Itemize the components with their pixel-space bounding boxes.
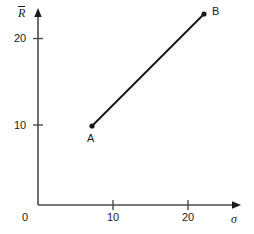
- point-label-b: B: [212, 6, 219, 17]
- y-tick-label-20: 20: [14, 33, 26, 44]
- data-point-b: [201, 11, 206, 16]
- x-tick-label-10: 10: [107, 212, 119, 223]
- y-tick-label-10: 10: [14, 120, 26, 131]
- plot-canvas: [0, 0, 254, 234]
- x-tick-label-20: 20: [182, 212, 194, 223]
- series-line-ab: [92, 14, 204, 126]
- x-axis-arrowhead: [232, 201, 241, 208]
- y-axis-title: R: [18, 6, 25, 20]
- y-axis-title-text: R: [18, 6, 25, 20]
- point-label-a: A: [87, 133, 94, 144]
- x-tick-label-0: 0: [22, 212, 28, 223]
- chart-figure: R σ 20 10 0 10 20 A B: [0, 0, 254, 234]
- x-axis-title: σ: [231, 213, 237, 225]
- data-point-a: [89, 123, 94, 128]
- y-axis-arrowhead: [34, 8, 41, 17]
